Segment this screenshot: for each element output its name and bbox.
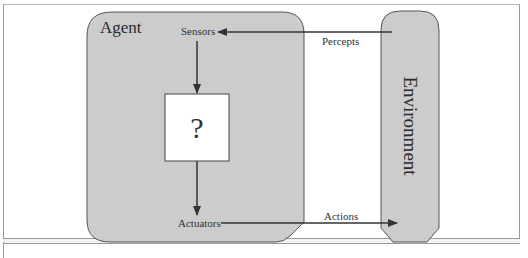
environment-label: Environment: [399, 76, 421, 175]
agent-environment-diagram: [0, 0, 528, 258]
actuators-label: Actuators: [178, 218, 221, 229]
actions-label: Actions: [324, 211, 358, 222]
sensors-label: Sensors: [181, 26, 215, 37]
agent-label: Agent: [100, 19, 142, 36]
unknown-label: ?: [165, 94, 229, 161]
percepts-label: Percepts: [322, 36, 359, 47]
